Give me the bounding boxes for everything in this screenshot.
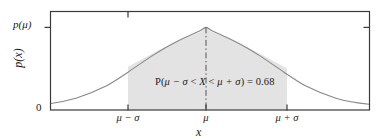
- annotation-less-than-1: <: [188, 76, 199, 87]
- plot-canvas: [0, 0, 379, 140]
- annotation-value: 0.68: [256, 76, 275, 87]
- ytick-label-zero: 0: [36, 102, 42, 113]
- xtick-label-mu: μ: [203, 112, 208, 123]
- xtick-label-mu-minus-sigma: μ − σ: [117, 112, 140, 123]
- annotation-equals: =: [244, 76, 255, 87]
- annotation-prefix: P(: [155, 76, 165, 87]
- probability-annotation: P(μ − σ < X < μ + σ) = 0.68: [155, 77, 275, 88]
- annotation-lower-bound: μ − σ: [165, 76, 188, 87]
- x-axis-title: x: [196, 126, 201, 138]
- y-axis-title: p(x): [12, 36, 24, 80]
- annotation-less-than-2: <: [206, 76, 217, 87]
- gaussian-distribution-figure: p(μ) 0 p(x) μ − σ μ μ + σ x P(μ − σ < X …: [0, 0, 379, 140]
- ytick-label-peak: p(μ): [13, 19, 31, 30]
- annotation-upper-bound: μ + σ: [217, 76, 240, 87]
- xtick-label-mu-plus-sigma: μ + σ: [276, 112, 299, 123]
- shaded-probability-region: [128, 27, 287, 110]
